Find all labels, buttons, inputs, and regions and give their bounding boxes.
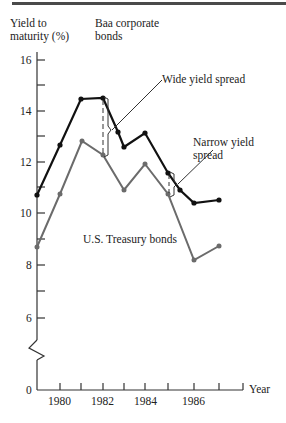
x-tick-1980: 1980 [48, 395, 71, 407]
y-tick-14: 14 [20, 105, 32, 117]
wide-spread-label: Wide yield spread [162, 73, 245, 86]
x-axis-title: Year [249, 383, 270, 395]
baa-series-label-line2: bonds [95, 30, 123, 42]
y-axis-title-line1: Yield to [10, 17, 47, 29]
y-tick-8: 8 [26, 259, 32, 271]
x-tick-1984: 1984 [134, 395, 157, 407]
narrow-spread-label-line1: Narrow yield [193, 136, 254, 149]
x-tick-1982: 1982 [91, 395, 114, 407]
y-tick-6: 6 [26, 312, 32, 324]
y-tick-0: 0 [26, 384, 32, 396]
treasury-series-label: U.S. Treasury bonds [83, 233, 177, 246]
narrow-spread-label-line2: spread [193, 149, 223, 162]
y-axis [29, 52, 45, 390]
y-tick-10: 10 [20, 207, 32, 219]
y-tick-16: 16 [20, 54, 32, 66]
y-axis-title-line2: maturity (%) [10, 30, 69, 43]
x-tick-1986: 1986 [182, 395, 205, 407]
baa-series-label-line1: Baa corporate [95, 17, 159, 30]
x-axis [37, 383, 243, 390]
y-tick-12: 12 [20, 156, 32, 168]
yield-chart: 16 14 12 10 8 6 0 1980 1982 1984 1986 Yi… [0, 0, 286, 423]
